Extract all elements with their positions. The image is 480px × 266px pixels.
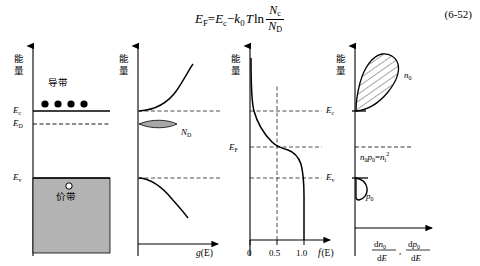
label-n0: n0 (404, 70, 412, 81)
panel3-ticklabel-05: 0.5 (269, 248, 281, 258)
valence-band-label: 价带 (56, 192, 76, 202)
panel3-ticklabel-0: 0 (247, 248, 252, 258)
panel-carrier-concentration: 能 量 n0 p0 n0p0=ni2 dn0 dE , dp0 dE (336, 46, 432, 263)
panel4-xlabel-num2: dp0 (408, 239, 420, 250)
hole-circle (66, 183, 72, 189)
panel-density-of-states: 能 量 ND g(E) (119, 46, 222, 259)
fermi-dirac-curve (251, 58, 304, 240)
panel4-y-axis-label-char1: 能 (336, 53, 346, 64)
label-Ec-panel3: Ec (325, 105, 335, 116)
n0-distribution-area (356, 54, 399, 111)
valence-dos-curve (139, 178, 188, 218)
electron-dot (41, 100, 48, 107)
panel4-xlabel-den1: dE (377, 253, 388, 263)
panel2-y-axis-label-char1: 能 (119, 53, 129, 64)
panel-fermi-distribution: 能 量 0 0.5 1.0 f (E) Ec EF Ev (228, 46, 335, 259)
valence-band-fill (33, 178, 110, 253)
panel4-xlabel-den2: dE (411, 253, 422, 263)
panel2-y-axis-label-char2: 量 (119, 66, 129, 76)
panel4-xlabel-comma: , (399, 246, 401, 256)
electron-dot (54, 100, 61, 107)
label-p0: p0 (365, 191, 374, 202)
label-ND: ND (180, 127, 192, 138)
panel3-y-axis-label-char1: 能 (231, 53, 241, 64)
panel3-ticklabel-10: 1.0 (296, 248, 308, 258)
conduction-band-label: 导带 (48, 78, 68, 88)
panel1-y-axis-label-char1: 能 (14, 53, 24, 64)
label-mass-action: n0p0=ni2 (360, 151, 389, 163)
panel3-y-axis-label-char2: 量 (231, 66, 241, 76)
label-Ev-panel3: Ev (325, 172, 335, 183)
panel4-xlabel-num1: dn0 (374, 239, 386, 250)
panel3-x-axis-label: f (E) (318, 248, 334, 259)
panel4-x-axis-label: dn0 dE , dp0 dE (372, 239, 430, 263)
label-EF-panel3: EF (228, 142, 239, 153)
electron-dot (80, 100, 87, 107)
semiconductor-band-figure: 能 量 Ec ED Ev 导带 价带 能 量 (0, 0, 480, 266)
label-ED-panel1: ED (12, 118, 24, 129)
panel2-x-axis-label: g(E) (196, 248, 213, 259)
panel1-y-axis-label-char2: 量 (14, 66, 24, 76)
electron-dot (67, 100, 74, 107)
conduction-dos-curve (139, 64, 193, 111)
panel-band-diagram: 能 量 Ec ED Ev 导带 价带 (12, 46, 110, 256)
label-Ec-panel1: Ec (12, 105, 22, 116)
label-Ev-panel1: Ev (12, 172, 22, 183)
donor-states-lens (139, 120, 177, 128)
panel4-y-axis-label-char2: 量 (336, 66, 346, 76)
